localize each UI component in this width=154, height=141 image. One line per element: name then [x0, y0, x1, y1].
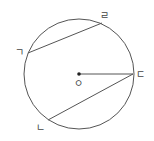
label-point-n: ㄴ	[36, 122, 45, 133]
label-point-d: ㄷ	[136, 69, 145, 80]
label-point-r: ㄹ	[100, 10, 109, 21]
chord-g-r	[28, 23, 102, 53]
circle-diagram: ㄱ ㄹ ㄷ ㄴ ㅇ	[0, 0, 154, 141]
center-point	[77, 72, 81, 76]
label-center-o: ㅇ	[74, 78, 83, 89]
label-point-g: ㄱ	[15, 47, 24, 58]
chord-n-d	[48, 74, 133, 120]
